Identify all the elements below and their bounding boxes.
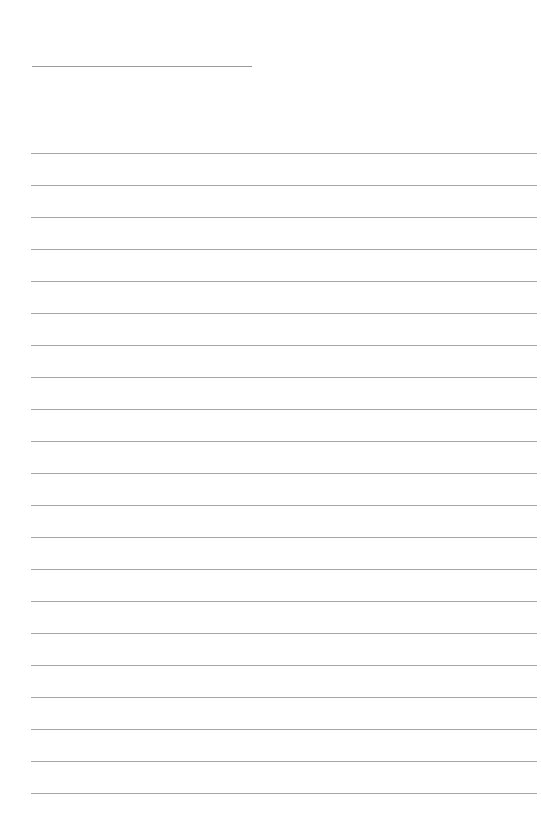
ruled-line [31,409,537,410]
ruled-line [31,249,537,250]
ruled-line [31,633,537,634]
ruled-line [31,345,537,346]
ruled-line [31,313,537,314]
ruled-line [31,441,537,442]
ruled-line [31,601,537,602]
ruled-line [31,281,537,282]
lined-page [0,0,542,840]
ruled-line [31,185,537,186]
ruled-line [31,377,537,378]
ruled-line [31,153,537,154]
ruled-line [31,761,537,762]
ruled-line [31,665,537,666]
ruled-line [31,697,537,698]
ruled-line [31,729,537,730]
ruled-line [31,537,537,538]
ruled-line [31,217,537,218]
title-line [32,66,252,67]
ruled-line [31,569,537,570]
ruled-line [31,473,537,474]
ruled-line [31,793,537,794]
ruled-line [31,505,537,506]
